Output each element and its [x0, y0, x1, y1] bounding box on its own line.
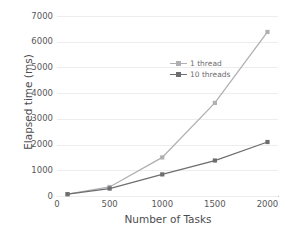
y-tick-label: 2000 [31, 140, 53, 149]
data-point-marker [265, 140, 269, 144]
plot-area: 1 thread10 threads [57, 16, 278, 196]
y-tick-label: 4000 [31, 89, 53, 98]
y-axis-title: Elapsed time (ms) [22, 27, 34, 177]
series-lines [57, 16, 278, 196]
data-point-marker [160, 155, 164, 159]
legend-label: 1 thread [190, 59, 222, 68]
data-point-marker [160, 172, 164, 176]
data-point-marker [213, 101, 217, 105]
x-axis-title: Number of Tasks [57, 213, 279, 225]
y-tick-label: 3000 [31, 114, 53, 123]
elapsed-time-line-chart: 01000200030004000500060007000 1 thread10… [0, 0, 306, 236]
legend-marker-icon [176, 61, 181, 66]
x-tick-label: 500 [101, 200, 117, 209]
series-line [68, 32, 268, 194]
data-point-marker [108, 186, 112, 190]
chart-legend: 1 thread10 threads [170, 58, 230, 80]
y-tick-label: 5000 [31, 63, 53, 72]
x-tick-label: 0 [54, 200, 59, 209]
x-tick-label: 1500 [204, 200, 226, 209]
y-tick-label: 6000 [31, 37, 53, 46]
x-tick-label: 1000 [151, 200, 173, 209]
y-tick-label: 7000 [31, 12, 53, 21]
legend-key-icon [170, 59, 187, 68]
data-point-marker [213, 158, 217, 162]
gridline [57, 196, 278, 197]
legend-marker-icon [176, 72, 181, 77]
legend-key-icon [170, 70, 187, 79]
legend-item: 10 threads [170, 69, 230, 80]
legend-label: 10 threads [190, 70, 230, 79]
data-point-marker [265, 30, 269, 34]
y-tick-label: 0 [48, 192, 53, 201]
y-tick-label: 1000 [31, 166, 53, 175]
legend-item: 1 thread [170, 58, 230, 69]
data-point-marker [65, 192, 69, 196]
x-tick-label: 2000 [257, 200, 279, 209]
series-line [68, 142, 268, 194]
